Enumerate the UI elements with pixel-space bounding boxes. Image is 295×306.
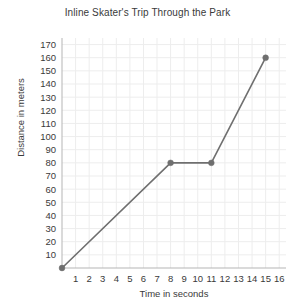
y-tick-label: 70 — [45, 170, 56, 181]
y-tick-label: 50 — [45, 197, 56, 208]
y-tick-labels: 1020304050607080901001101201301401501601… — [40, 39, 56, 260]
y-tick-label: 40 — [45, 210, 56, 221]
x-tick-label: 5 — [127, 273, 132, 284]
x-tick-label: 15 — [260, 273, 271, 284]
y-tick-label: 30 — [45, 223, 56, 234]
x-tick-label: 1 — [73, 273, 78, 284]
y-tick-label: 10 — [45, 249, 56, 260]
y-tick-label: 80 — [45, 157, 56, 168]
data-point-marker — [263, 55, 269, 61]
data-point-marker — [168, 160, 174, 166]
x-tick-label: 9 — [182, 273, 187, 284]
plot-area: 1020304050607080901001101201301401501601… — [0, 0, 295, 306]
x-tick-label: 4 — [114, 273, 119, 284]
x-tick-label: 12 — [220, 273, 231, 284]
x-tick-label: 16 — [274, 273, 285, 284]
x-tick-label: 8 — [168, 273, 173, 284]
x-tick-label: 7 — [154, 273, 159, 284]
chart-container: Inline Skater's Trip Through the Park Di… — [0, 0, 295, 306]
y-tick-label: 20 — [45, 236, 56, 247]
y-tick-label: 130 — [40, 92, 56, 103]
data-point-marker — [59, 265, 65, 271]
y-tick-label: 110 — [41, 118, 56, 129]
x-tick-label: 11 — [206, 273, 216, 284]
x-tick-labels: 12345678910111213141516 — [73, 273, 285, 284]
y-tick-label: 100 — [40, 131, 56, 142]
x-tick-label: 13 — [233, 273, 244, 284]
y-tick-label: 160 — [40, 52, 56, 63]
y-tick-label: 150 — [40, 65, 56, 76]
x-tick-label: 3 — [100, 273, 105, 284]
data-point-marker — [208, 160, 214, 166]
y-tick-label: 170 — [40, 39, 56, 50]
y-tick-label: 140 — [40, 78, 56, 89]
x-tick-label: 10 — [192, 273, 203, 284]
x-tick-label: 6 — [141, 273, 146, 284]
y-tick-label: 90 — [45, 144, 56, 155]
y-tick-label: 60 — [45, 184, 56, 195]
x-tick-label: 14 — [247, 273, 258, 284]
y-tick-label: 120 — [40, 105, 56, 116]
gridlines — [62, 38, 286, 268]
x-tick-label: 2 — [87, 273, 92, 284]
